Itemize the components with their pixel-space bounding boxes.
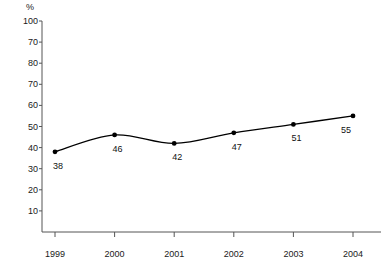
data-point-marker [351,114,356,119]
data-point-label: 51 [291,133,301,143]
x-axis-tick-label: 2004 [343,249,363,259]
plot-area [0,0,385,272]
data-point-marker [172,141,177,146]
data-point-label: 47 [232,142,242,152]
series-line [55,116,353,152]
data-point-label: 55 [341,125,351,135]
x-axis-tick-label: 2000 [105,249,125,259]
data-point-marker [231,130,236,135]
x-axis-tick-label: 1999 [45,249,65,259]
data-point-marker [291,122,296,127]
axis-lines [42,21,381,232]
x-axis-ticks [55,232,353,237]
x-axis-tick-label: 2003 [283,249,303,259]
x-axis-tick-label: 2002 [224,249,244,259]
series-markers [53,114,356,155]
data-point-label: 38 [53,161,63,171]
x-axis-tick-label: 2001 [164,249,184,259]
data-point-label: 42 [172,152,182,162]
data-point-label: 46 [113,144,123,154]
data-point-marker [112,133,117,138]
data-point-marker [53,149,58,154]
line-chart: % 100708070605040302010 1999200020012002… [0,0,385,272]
